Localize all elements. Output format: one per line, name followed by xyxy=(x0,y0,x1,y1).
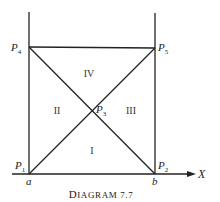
top-edge-p4-p5 xyxy=(29,47,155,48)
point-label-p2: P2 xyxy=(157,159,169,174)
tick-label-b: b xyxy=(152,175,158,187)
tick-label-a: a xyxy=(26,175,32,187)
region-label-iii: III xyxy=(126,105,136,116)
region-label-i: I xyxy=(90,145,93,156)
diagram-7-7: P4 P5 P3 P1 P2 a b X IV II III I DIAGRAM… xyxy=(0,0,220,202)
point-label-p5: P5 xyxy=(157,41,169,56)
point-label-p4: P4 xyxy=(10,41,22,56)
region-label-ii: II xyxy=(54,105,61,116)
x-axis-arrowhead-icon xyxy=(187,171,196,177)
diagram-caption: DIAGRAM 7.7 xyxy=(69,188,134,200)
point-label-p1: P1 xyxy=(14,159,26,174)
region-label-iv: IV xyxy=(84,68,95,79)
x-axis-label: X xyxy=(197,167,206,181)
